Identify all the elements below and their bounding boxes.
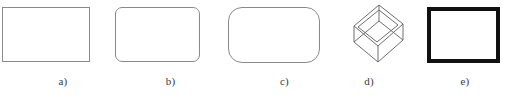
rectangle-sharp-corners-shape [2,7,90,62]
figure-caption-d: d) [327,74,411,88]
rectangle-thick-black-border-shape [427,7,500,63]
figure-item-b: b) [113,0,228,98]
shape-area-e [425,0,505,70]
figure-caption-c: c) [226,74,343,88]
figure-item-d: d) [327,0,411,98]
shape-area-b [113,0,228,70]
isometric-wireframe-box-shape [327,0,411,70]
figure-item-a: a) [0,0,126,98]
iso-bottom-edge-left-back [354,21,379,42]
figure-caption-b: b) [113,74,228,88]
iso-bottom-edge-left-front [354,42,378,62]
shape-area-d [327,0,411,70]
figure-item-c: c) [226,0,343,98]
rectangle-large-rounded-corners-shape [228,7,320,63]
figure-caption-e: e) [425,74,505,88]
rectangle-small-rounded-corners-shape [115,7,200,62]
figure-caption-a: a) [0,74,126,88]
shape-area-c [226,0,343,70]
figure-panel: a) b) c) [0,0,505,98]
figure-item-e: e) [425,0,505,98]
shape-area-a [0,0,126,70]
